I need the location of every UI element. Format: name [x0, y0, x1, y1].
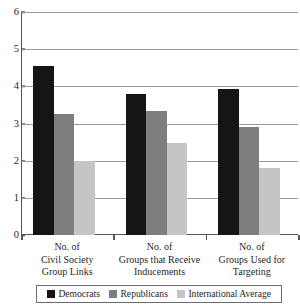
- bar: [146, 111, 167, 236]
- bar: [218, 89, 239, 235]
- category-label-line: Groups that Receive: [113, 254, 205, 267]
- legend-swatch-icon: [47, 290, 55, 298]
- legend-swatch-icon: [177, 290, 185, 298]
- legend-item: Republicans: [109, 289, 168, 299]
- category-label-line: Group Links: [21, 266, 113, 279]
- legend-swatch-icon: [109, 290, 117, 298]
- category-tick-mark: [206, 235, 208, 240]
- bar: [33, 66, 54, 235]
- category-axis-labels: No. ofCivil SocietyGroup LinksNo. ofGrou…: [21, 241, 298, 283]
- category-label-line: Inducements: [113, 266, 205, 279]
- y-axis-tick-label: 1: [0, 193, 19, 204]
- legend-label: Democrats: [58, 289, 100, 299]
- y-axis-tick-label: 5: [0, 44, 19, 55]
- bar: [259, 168, 280, 235]
- bar: [54, 114, 75, 235]
- legend-label: International Average: [188, 289, 271, 299]
- category-tick-mark: [21, 235, 23, 240]
- category-label-line: Civil Society: [21, 254, 113, 267]
- category-label-line: Groups Used for: [206, 254, 298, 267]
- category-label: No. ofGroups Used forTargeting: [206, 241, 298, 279]
- chart-legend: DemocratsRepublicansInternational Averag…: [36, 285, 282, 303]
- y-axis-tick-label: 4: [0, 81, 19, 92]
- category-label: No. ofGroups that ReceiveInducements: [113, 241, 205, 279]
- category-label-line: No. of: [113, 241, 205, 254]
- category-tick-mark: [113, 235, 115, 240]
- category-label-line: No. of: [21, 241, 113, 254]
- bar-chart: 0123456 No. ofCivil SocietyGroup LinksNo…: [0, 0, 300, 306]
- bar: [126, 94, 147, 235]
- legend-item: Democrats: [47, 289, 100, 299]
- category-label-line: No. of: [206, 241, 298, 254]
- category-label: No. ofCivil SocietyGroup Links: [21, 241, 113, 279]
- legend-label: Republicans: [120, 289, 167, 299]
- y-axis-tick-label: 0: [0, 230, 19, 241]
- bar: [239, 127, 260, 235]
- bar: [167, 143, 188, 235]
- bars-layer: [21, 12, 298, 235]
- bar: [74, 161, 95, 235]
- category-label-line: Targeting: [206, 266, 298, 279]
- y-axis-tick-label: 3: [0, 118, 19, 129]
- y-axis-tick-label: 6: [0, 7, 19, 18]
- y-axis-tick-label: 2: [0, 155, 19, 166]
- legend-item: International Average: [177, 289, 271, 299]
- category-tick-mark: [298, 235, 300, 240]
